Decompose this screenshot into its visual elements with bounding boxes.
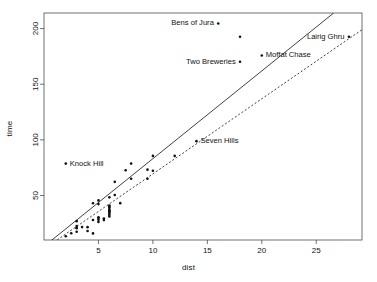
point-label: Moffat Chase <box>266 50 311 59</box>
data-point <box>92 202 95 205</box>
data-point <box>75 230 78 233</box>
point-label: Two Breweries <box>186 57 236 66</box>
data-point <box>97 199 100 202</box>
y-tick-label: 150 <box>32 77 41 91</box>
data-point <box>195 140 198 143</box>
point-label: Knock Hill <box>70 159 104 168</box>
plot-area <box>51 13 362 244</box>
x-tick-label: 25 <box>312 246 321 255</box>
data-point <box>97 203 100 206</box>
data-point <box>124 169 127 172</box>
plot-frame <box>44 13 362 240</box>
data-point <box>92 219 95 222</box>
data-point <box>130 162 133 165</box>
data-point <box>86 226 89 229</box>
data-point <box>97 217 100 220</box>
data-point <box>75 225 78 228</box>
y-tick-label: 50 <box>32 190 41 199</box>
data-point <box>75 220 78 223</box>
y-tick-label: 100 <box>32 133 41 147</box>
y-tick-label: 200 <box>32 21 41 35</box>
data-point <box>108 215 111 218</box>
data-point <box>86 230 89 233</box>
data-point <box>348 35 351 38</box>
data-point <box>64 162 67 165</box>
plot-canvas: 51015202550100150200 <box>0 0 377 282</box>
data-point <box>130 177 133 180</box>
x-tick-label: 5 <box>96 246 101 255</box>
data-point <box>108 204 111 207</box>
data-point <box>64 235 67 238</box>
x-tick-label: 20 <box>257 246 266 255</box>
data-point <box>152 155 155 158</box>
data-point <box>70 232 73 235</box>
data-point <box>239 60 242 63</box>
data-point <box>113 181 116 184</box>
x-tick-label: 10 <box>148 246 157 255</box>
data-point <box>108 211 111 214</box>
y-axis-title: time <box>5 109 14 149</box>
data-point <box>92 232 95 235</box>
data-point <box>152 169 155 172</box>
scatter-plot-figure: 51015202550100150200 dist time Bens of J… <box>0 0 377 282</box>
point-label: Lairig Ghru <box>307 32 345 41</box>
data-point <box>146 168 149 171</box>
fit-line-solid <box>51 13 334 241</box>
data-point <box>108 208 111 211</box>
data-point <box>173 155 176 158</box>
data-point <box>239 35 242 38</box>
data-point <box>119 202 122 205</box>
data-point <box>108 196 111 199</box>
data-point <box>81 226 84 229</box>
data-point <box>261 54 264 57</box>
data-point <box>113 194 116 197</box>
x-axis-title: dist <box>0 263 377 272</box>
data-point <box>217 22 220 25</box>
point-label: Bens of Jura <box>171 18 214 27</box>
data-point <box>103 217 106 220</box>
point-label: Seven Hills <box>200 136 238 145</box>
data-point <box>146 177 149 180</box>
x-tick-label: 15 <box>203 246 212 255</box>
